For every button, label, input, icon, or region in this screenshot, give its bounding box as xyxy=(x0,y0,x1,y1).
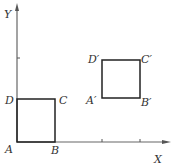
vertex-label-d: D xyxy=(4,94,14,107)
vertex-label-b: B xyxy=(50,144,59,157)
vertex-label-a-prime: A′ xyxy=(85,94,97,107)
vertex-label-c: C xyxy=(59,94,68,107)
square-abcd xyxy=(17,99,55,142)
vertex-label-b-prime: B′ xyxy=(140,96,152,109)
vertex-label-d-prime: D′ xyxy=(87,53,100,66)
vertex-label-a: A xyxy=(4,143,13,156)
y-axis-label: Y xyxy=(4,8,13,21)
x-axis-arrow-icon xyxy=(162,140,171,144)
square-abcd-prime xyxy=(102,60,140,98)
x-axis-label: X xyxy=(153,153,163,166)
vertex-label-c-prime: C′ xyxy=(141,53,152,66)
y-axis-arrow-icon xyxy=(15,3,19,11)
coordinate-diagram: Y X A B C D A′ B′ C′ D′ xyxy=(0,0,174,167)
diagram-canvas: Y X A B C D A′ B′ C′ D′ xyxy=(0,0,174,167)
